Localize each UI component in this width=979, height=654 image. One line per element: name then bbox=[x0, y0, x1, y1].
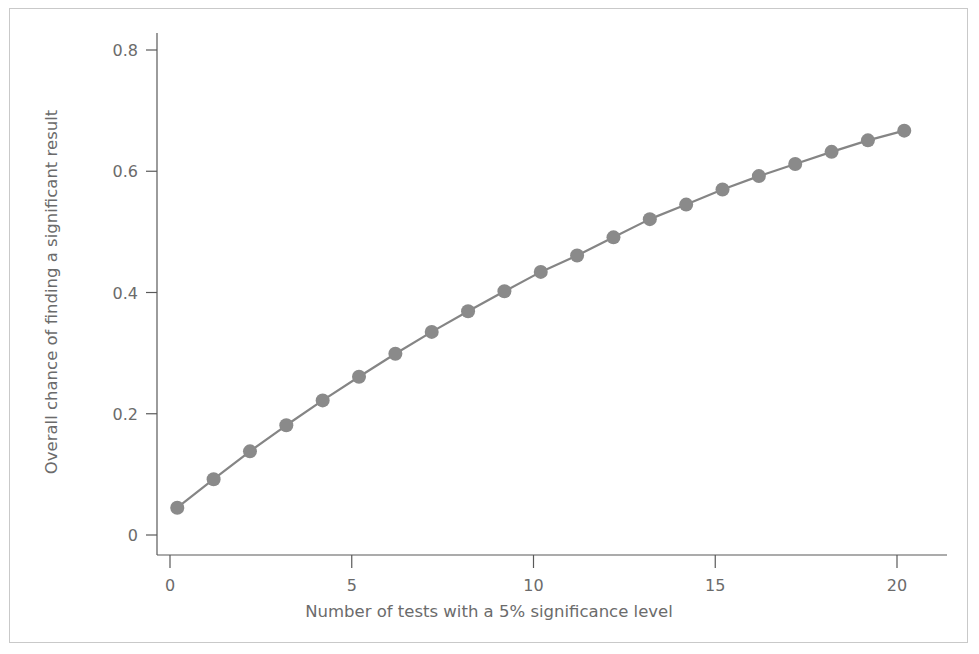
data-point-marker bbox=[388, 347, 402, 361]
data-point-marker bbox=[752, 169, 766, 183]
y-tick-label: 0.6 bbox=[113, 162, 138, 181]
y-tick-label: 0.4 bbox=[113, 284, 138, 303]
y-tick-label: 0.2 bbox=[113, 405, 138, 424]
y-tick-labels: 00.20.40.60.8 bbox=[113, 41, 138, 545]
chart-figure: 00.20.40.60.8 05101520 Number of tests w… bbox=[0, 0, 979, 654]
data-point-marker bbox=[170, 501, 184, 515]
data-point-marker bbox=[897, 124, 911, 138]
data-point-marker bbox=[461, 304, 475, 318]
y-axis bbox=[146, 33, 157, 555]
data-point-markers bbox=[170, 124, 911, 515]
x-tick-label: 20 bbox=[887, 576, 907, 595]
data-point-marker bbox=[279, 418, 293, 432]
x-axis bbox=[157, 555, 947, 568]
x-tick-label: 0 bbox=[165, 576, 175, 595]
data-point-marker bbox=[716, 182, 730, 196]
x-tick-label: 10 bbox=[523, 576, 543, 595]
y-axis-label: Overall chance of finding a significant … bbox=[42, 109, 61, 474]
x-tick-label: 5 bbox=[347, 576, 357, 595]
data-point-marker bbox=[643, 212, 657, 226]
x-tick-label: 15 bbox=[705, 576, 725, 595]
data-point-marker bbox=[861, 133, 875, 147]
y-tick-label: 0.8 bbox=[113, 41, 138, 60]
x-tick-labels: 05101520 bbox=[165, 576, 907, 595]
data-point-marker bbox=[316, 393, 330, 407]
data-point-marker bbox=[570, 249, 584, 263]
data-point-marker bbox=[352, 370, 366, 384]
data-point-marker bbox=[207, 472, 221, 486]
line-chart-plot: 00.20.40.60.8 05101520 Number of tests w… bbox=[0, 0, 979, 654]
data-point-marker bbox=[243, 444, 257, 458]
data-point-marker bbox=[606, 230, 620, 244]
data-point-marker bbox=[497, 284, 511, 298]
data-point-marker bbox=[825, 145, 839, 159]
data-point-marker bbox=[425, 325, 439, 339]
x-axis-label: Number of tests with a 5% significance l… bbox=[305, 602, 673, 621]
data-line-series bbox=[177, 131, 904, 508]
data-point-marker bbox=[679, 198, 693, 212]
data-point-marker bbox=[788, 157, 802, 171]
y-tick-label: 0 bbox=[128, 526, 138, 545]
data-point-marker bbox=[534, 265, 548, 279]
